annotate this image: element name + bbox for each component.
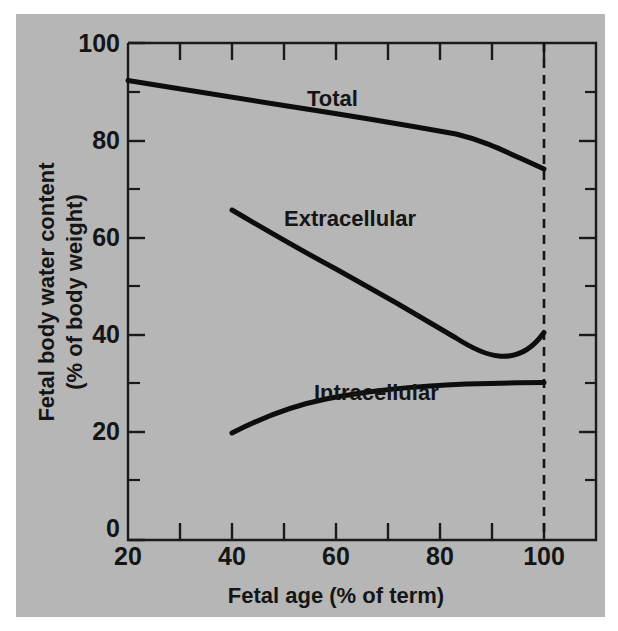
x-axis-ticks xyxy=(180,523,544,540)
y-tick-label-20: 20 xyxy=(92,417,120,445)
x-axis-tick-labels: 20 40 60 80 100 xyxy=(114,542,565,570)
y-axis-title: Fetal body water content (% of body weig… xyxy=(34,162,87,422)
right-axis-ticks xyxy=(579,92,596,480)
y-tick-label-0: 0 xyxy=(106,514,120,542)
top-axis-ticks xyxy=(180,43,544,60)
series-label-total: Total xyxy=(307,86,358,111)
series-label-intracellular: Intracellular xyxy=(314,380,439,405)
y-tick-label-40: 40 xyxy=(92,320,120,348)
y-tick-label-60: 60 xyxy=(92,223,120,251)
x-tick-label-40: 40 xyxy=(218,542,246,570)
series-label-extracellular: Extracellular xyxy=(284,206,417,231)
x-tick-label-80: 80 xyxy=(426,542,454,570)
line-chart: 100 80 60 40 20 0 20 40 60 80 100 xyxy=(16,14,605,617)
y-tick-label-100: 100 xyxy=(78,29,120,57)
chart-panel: 100 80 60 40 20 0 20 40 60 80 100 xyxy=(16,14,605,617)
series-annotations: Total Extracellular Intracellular xyxy=(284,86,439,405)
y-tick-label-80: 80 xyxy=(92,126,120,154)
figure-root: 100 80 60 40 20 0 20 40 60 80 100 xyxy=(0,0,618,631)
series-curve-extracellular xyxy=(232,210,544,356)
y-axis-title-line2: (% of body weight) xyxy=(62,194,87,390)
x-tick-label-60: 60 xyxy=(322,542,350,570)
x-tick-label-20: 20 xyxy=(114,542,142,570)
x-axis-title: Fetal age (% of term) xyxy=(228,583,444,608)
y-axis-ticks xyxy=(128,43,145,540)
x-tick-label-100: 100 xyxy=(523,542,565,570)
y-axis-title-line1: Fetal body water content xyxy=(34,162,59,422)
